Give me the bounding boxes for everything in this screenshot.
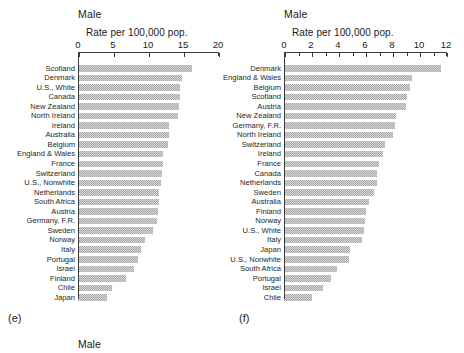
bar-row: Israel <box>232 284 464 293</box>
bar <box>284 94 407 101</box>
bar <box>78 84 180 91</box>
bar-category-label: Germany, F.R. <box>27 216 75 225</box>
bar-row: Norway <box>0 236 232 245</box>
panel-e-plot-area: ScotlandDenmarkU.S., WhiteCanadaNew Zeal… <box>0 64 232 307</box>
bar-category-label: Portugal <box>47 255 75 264</box>
x-axis-tick <box>149 53 150 57</box>
bar <box>78 161 163 168</box>
bar-row: Denmark <box>232 64 464 73</box>
panel-f-baseline <box>284 56 285 299</box>
bar-category-label: U.S., White <box>243 226 281 235</box>
bar-row: Finland <box>232 207 464 216</box>
bar-row: Finland <box>0 274 232 283</box>
x-axis-tick-label: 4 <box>335 39 340 50</box>
bar <box>78 266 134 273</box>
bar-category-label: Sweden <box>48 226 75 235</box>
bar-row: Japan <box>0 293 232 302</box>
bar-category-label: Chile <box>264 293 281 302</box>
bar-category-label: New Zealand <box>30 102 75 111</box>
x-axis-tick <box>312 53 313 57</box>
bar <box>284 266 337 273</box>
bar <box>284 246 350 253</box>
bar-category-label: Canada <box>254 169 281 178</box>
bar-category-label: France <box>51 159 75 168</box>
bar <box>78 75 182 82</box>
bar <box>284 218 365 225</box>
bar-row: Australia <box>232 198 464 207</box>
bar-row: South Africa <box>0 198 232 207</box>
bar-row: Austria <box>0 207 232 216</box>
x-axis-tick <box>114 53 115 57</box>
bar <box>78 151 163 158</box>
bar <box>284 161 379 168</box>
bar-row: Ireland <box>232 150 464 159</box>
bar <box>78 180 161 187</box>
bar-category-label: Japan <box>54 293 75 302</box>
bar-category-label: Germany, F.R. <box>233 121 281 130</box>
bar-row: Norway <box>232 217 464 226</box>
x-axis-tick-label: 10 <box>414 39 425 50</box>
bar <box>78 103 179 110</box>
x-axis-minor-tick <box>434 53 435 56</box>
bar <box>78 122 169 129</box>
bar-row: Japan <box>232 245 464 254</box>
bar <box>284 170 377 177</box>
bar <box>284 65 441 72</box>
bar-category-label: Finland <box>256 207 281 216</box>
bar-category-label: New Zealand <box>236 111 281 120</box>
bar <box>78 285 112 292</box>
panel-f-x-axis <box>284 52 447 56</box>
bar <box>284 151 383 158</box>
bar-row: New Zealand <box>0 102 232 111</box>
panel-f-axis-title: Rate per 100,000 pop. <box>292 27 394 38</box>
bar <box>284 75 412 82</box>
bar <box>284 113 396 120</box>
bar-category-label: North Ireland <box>237 130 281 139</box>
bar-category-label: Scotland <box>251 92 281 101</box>
bar-row: U.S., White <box>0 83 232 92</box>
bar-row: U.S., Nonwhite <box>0 179 232 188</box>
bar-row: Sweden <box>0 226 232 235</box>
bar-row: Belgium <box>0 140 232 149</box>
bar <box>284 132 393 139</box>
bar-row: Belgium <box>232 83 464 92</box>
bar-row: France <box>0 160 232 169</box>
x-axis-tick-label: 10 <box>143 39 154 50</box>
bar-category-label: Denmark <box>250 64 281 73</box>
bar-category-label: Norway <box>49 235 75 244</box>
bar-row: Germany, F.R. <box>232 121 464 130</box>
bar-category-label: Belgium <box>254 83 281 92</box>
panel-e-axis-title: Rate per 100,000 pop. <box>86 27 188 38</box>
bar-row: Scotland <box>232 93 464 102</box>
x-axis-tick-label: 6 <box>362 39 367 50</box>
x-axis-minor-tick <box>326 53 327 56</box>
bar-row: Chile <box>0 284 232 293</box>
x-axis-tick-label: 2 <box>308 39 313 50</box>
bar-row: Switzerland <box>0 169 232 178</box>
x-axis-minor-tick <box>407 53 408 56</box>
bar <box>78 199 159 206</box>
panel-f-sex-title: Male <box>284 8 308 20</box>
bar <box>284 122 395 129</box>
bar-category-label: U.S., White <box>37 83 75 92</box>
bar-row: North Ireland <box>232 131 464 140</box>
bar-category-label: Australia <box>45 130 75 139</box>
bar <box>284 180 377 187</box>
bar <box>284 103 406 110</box>
x-axis-minor-tick <box>380 53 381 56</box>
bar-row: Netherlands <box>0 188 232 197</box>
x-axis-tick <box>79 53 80 57</box>
bar-category-label: Finland <box>50 274 75 283</box>
bar-row: Portugal <box>0 255 232 264</box>
bar-row: Italy <box>0 245 232 254</box>
bar-category-label: Portugal <box>253 274 281 283</box>
x-axis-tick <box>366 53 367 57</box>
x-axis-tick-label: 15 <box>178 39 189 50</box>
bar-category-label: Chile <box>58 283 75 292</box>
bar-category-label: Sweden <box>254 188 281 197</box>
x-axis-minor-tick <box>299 53 300 56</box>
bar <box>284 227 364 234</box>
panel-f-plot-area: DenmarkEngland & WalesBelgiumScotlandAus… <box>232 64 464 307</box>
bar <box>78 94 180 101</box>
bar-row: Denmark <box>0 74 232 83</box>
